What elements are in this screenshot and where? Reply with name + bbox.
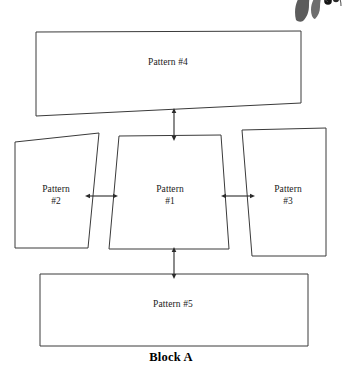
pattern-box-1-label: Pattern #1 xyxy=(130,184,210,207)
pattern-box-2-label: Pattern #2 xyxy=(16,184,96,207)
pattern-box-3-label: Pattern #3 xyxy=(248,184,328,207)
figure-caption: Block A xyxy=(0,350,342,365)
figure-page: Pattern #4 Pattern #2 Pattern #1 Pattern… xyxy=(0,0,342,366)
pattern-box-4-label: Pattern #4 xyxy=(108,57,228,69)
pattern-box-4[interactable] xyxy=(36,31,301,116)
pattern-box-5-label: Pattern #5 xyxy=(113,299,233,311)
block-diagram-canvas xyxy=(0,0,342,366)
